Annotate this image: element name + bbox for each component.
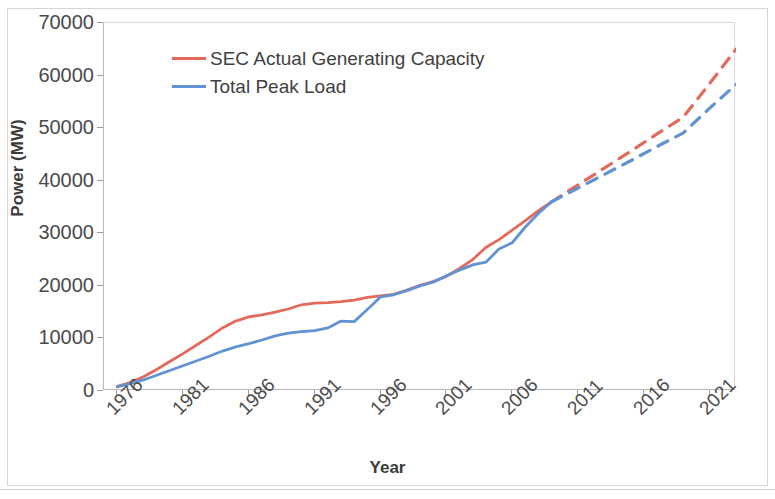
line-capacity-actual bbox=[117, 202, 552, 387]
legend-label-capacity: SEC Actual Generating Capacity bbox=[210, 49, 485, 68]
y-tick-label: 50000 bbox=[6, 117, 94, 137]
y-tick-mark bbox=[97, 180, 103, 181]
legend-swatch-capacity bbox=[172, 57, 206, 60]
y-tick-label: 60000 bbox=[6, 65, 94, 85]
line-capacity-forecast bbox=[552, 49, 736, 201]
legend-swatch-peak-load bbox=[172, 85, 206, 88]
y-tick-mark bbox=[97, 75, 103, 76]
figure-bottom-rule bbox=[0, 489, 775, 490]
y-tick-label: 70000 bbox=[6, 12, 94, 32]
y-tick-mark bbox=[97, 232, 103, 233]
y-axis-ticks: 010000200003000040000500006000070000 bbox=[0, 0, 94, 499]
y-tick-mark bbox=[97, 22, 103, 23]
y-tick-label: 0 bbox=[6, 380, 94, 400]
y-tick-label: 20000 bbox=[6, 275, 94, 295]
legend-item-capacity: SEC Actual Generating Capacity bbox=[172, 44, 502, 72]
x-axis-title: Year bbox=[0, 458, 775, 478]
y-tick-mark bbox=[97, 285, 103, 286]
y-tick-mark bbox=[97, 337, 103, 338]
y-tick-label: 30000 bbox=[6, 222, 94, 242]
y-tick-mark bbox=[97, 127, 103, 128]
y-tick-label: 10000 bbox=[6, 327, 94, 347]
chart-legend: SEC Actual Generating Capacity Total Pea… bbox=[172, 44, 502, 100]
legend-label-peak-load: Total Peak Load bbox=[210, 77, 346, 96]
chart-figure: Power (MW) 01000020000300004000050000600… bbox=[0, 0, 775, 499]
line-peak-load-actual bbox=[117, 202, 552, 387]
legend-item-peak-load: Total Peak Load bbox=[172, 72, 502, 100]
y-tick-mark bbox=[97, 390, 103, 391]
y-tick-label: 40000 bbox=[6, 170, 94, 190]
